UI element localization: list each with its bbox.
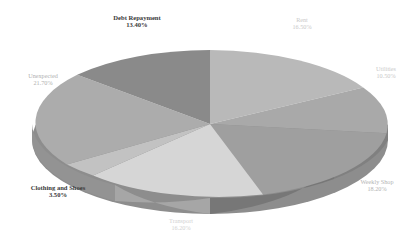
pie-label-rent-percent: 16.50% [272,24,332,31]
pie-label-rent: Rent 16.50% [272,17,332,31]
pie-label-weekly-shop-percent: 18.20% [340,186,414,193]
pie-label-weekly-shop: Weekly Shop 18.20% [340,179,414,193]
pie-label-clothing-and-shoes: Clothing and Shoes 3.50% [14,184,102,199]
pie-label-debt-repayment-name: Debt Repayment [93,14,181,21]
pie-label-debt-repayment: Debt Repayment 13.40% [93,14,181,29]
pie-chart-canvas [0,0,420,250]
pie-label-utilities-percent: 10.50% [357,73,415,80]
pie-label-transport: Transport 16.20% [148,218,214,232]
pie-chart: Debt Repayment 13.40% Rent 16.50% Utilit… [0,0,420,250]
pie-label-unexpected-percent: 21.70% [12,80,74,87]
pie-label-unexpected: Unexpected 21.70% [12,73,74,87]
pie-label-debt-repayment-percent: 13.40% [93,21,181,28]
pie-label-transport-percent: 16.20% [148,225,214,232]
pie-label-clothing-and-shoes-percent: 3.50% [14,191,102,198]
pie-label-clothing-and-shoes-name: Clothing and Shoes [14,184,102,191]
pie-label-utilities: Utilities 10.50% [357,66,415,80]
